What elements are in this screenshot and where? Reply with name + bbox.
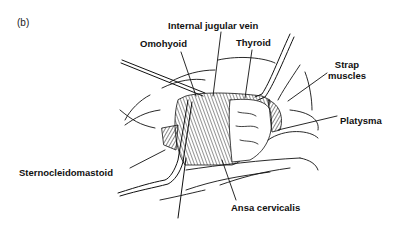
retractor-right xyxy=(255,34,294,100)
retractor-left xyxy=(121,60,205,96)
anatomical-illustration xyxy=(0,0,400,231)
exposed-structures xyxy=(162,93,282,165)
